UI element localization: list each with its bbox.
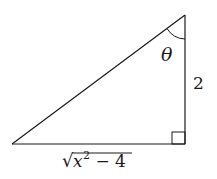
base-label: √ x 2 − 4 (62, 149, 132, 171)
right-angle-marker (172, 132, 185, 144)
triangle-diagram: θ 2 √ x 2 − 4 (0, 0, 217, 179)
hypotenuse (12, 15, 185, 144)
triangle (12, 15, 185, 144)
radicand-rest: − 4 (90, 151, 126, 171)
radicand-variable: x (73, 151, 83, 171)
radicand-exponent: 2 (83, 149, 90, 162)
vertical-side-label: 2 (193, 73, 204, 93)
angle-arc (167, 29, 185, 40)
angle-theta-label: θ (161, 43, 173, 65)
